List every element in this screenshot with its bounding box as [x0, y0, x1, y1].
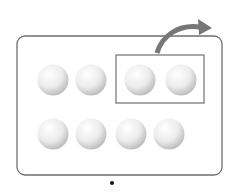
subtraction-diagram — [0, 0, 236, 193]
dot — [110, 181, 114, 185]
ball — [125, 65, 156, 96]
ball — [76, 119, 107, 150]
tray-outline — [17, 36, 222, 175]
ball — [38, 119, 69, 150]
dot-marker — [110, 181, 114, 185]
ball — [116, 119, 147, 150]
ball — [166, 65, 197, 96]
tray — [17, 36, 222, 175]
ball — [76, 65, 107, 96]
ball — [38, 65, 69, 96]
ball — [154, 119, 185, 150]
